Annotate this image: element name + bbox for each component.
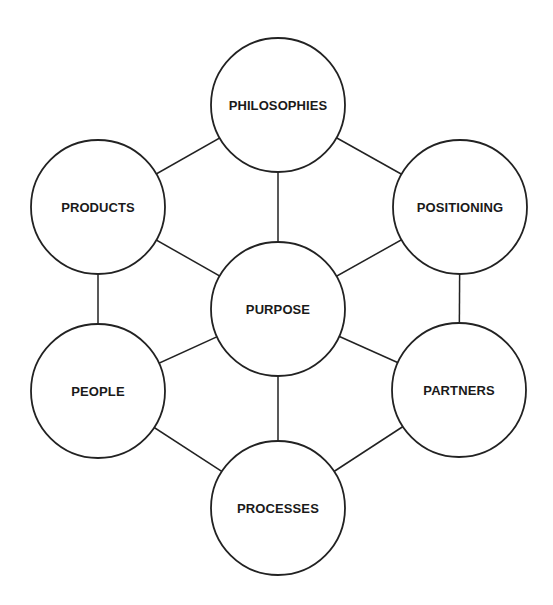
node-label-positioning: POSITIONING (417, 201, 503, 214)
node-label-partners: PARTNERS (423, 384, 494, 397)
node-label-philosophies: PHILOSOPHIES (229, 99, 328, 112)
diagram-canvas: PHILOSOPHIES PRODUCTS POSITIONING PURPOS… (0, 0, 553, 605)
node-label-processes: PROCESSES (237, 502, 319, 515)
node-label-purpose: PURPOSE (246, 303, 310, 316)
node-label-products: PRODUCTS (61, 201, 135, 214)
node-label-people: PEOPLE (71, 385, 124, 398)
